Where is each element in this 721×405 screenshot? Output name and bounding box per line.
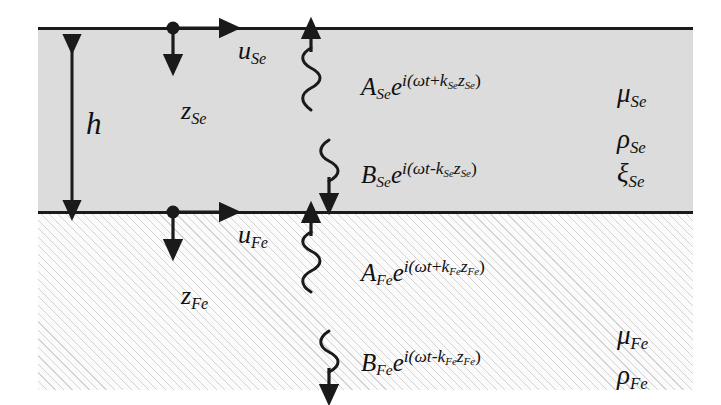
exponential-base: e	[391, 73, 402, 100]
property-subscript: Se	[631, 92, 647, 111]
exponential-base: e	[391, 161, 402, 188]
amplitude-symbol: A	[361, 259, 376, 286]
wave-propagation-diagram: h uSe zSe uFe zFe ASeei(ωt+kSezSe) BSeei…	[0, 0, 721, 405]
amplitude-symbol: A	[361, 73, 376, 100]
property-symbol: ρ	[617, 124, 630, 154]
z-fe-symbol: z	[181, 281, 191, 310]
exponent-suffix: )	[471, 158, 477, 178]
property-symbol: ρ	[617, 360, 630, 390]
u-fe-subscript: Fe	[251, 234, 268, 251]
material-property-xi-se: ξSe	[617, 160, 644, 190]
depth-subscript: Se	[465, 79, 475, 91]
z-se-subscript: Se	[191, 110, 206, 127]
tangential-axis-label-u-se: uSe	[238, 38, 266, 67]
material-property-rho-se: ρSe	[617, 126, 646, 156]
exponent-suffix: )	[479, 256, 485, 276]
property-subscript: Se	[630, 138, 646, 157]
sign-symbol: +	[430, 70, 440, 90]
exponent-group: i(ωt+kFezFe)	[404, 256, 485, 276]
exponent-prefix: i(	[404, 346, 415, 366]
amplitude-subscript: Fe	[376, 271, 392, 288]
amplitude-subscript: Se	[376, 173, 391, 190]
depth-symbol: z	[454, 158, 461, 178]
equation-upgoing-wave-fe: AFeei(ωt+kFezFe)	[361, 258, 485, 288]
top-surface-line	[38, 27, 693, 30]
omega-symbol: ω	[413, 70, 425, 90]
property-symbol: ξ	[617, 158, 629, 188]
wavenumber-subscript: Fe	[445, 355, 456, 367]
material-property-mu-fe: μFe	[617, 322, 648, 352]
wavenumber-symbol: k	[440, 70, 448, 90]
sign-symbol: +	[432, 256, 442, 276]
material-property-mu-se: μSe	[617, 80, 646, 110]
depth-subscript: Se	[461, 167, 471, 179]
amplitude-subscript: Fe	[376, 361, 392, 378]
depth-symbol: z	[458, 70, 465, 90]
property-subscript: Se	[629, 172, 645, 191]
exponent-prefix: i(	[402, 158, 413, 178]
omega-symbol: ω	[413, 158, 425, 178]
property-symbol: μ	[617, 78, 631, 108]
layer-interface-line	[38, 211, 693, 214]
z-se-symbol: z	[181, 96, 191, 125]
amplitude-subscript: Se	[376, 85, 391, 102]
wavenumber-subscript: Se	[444, 167, 454, 179]
u-se-symbol: u	[238, 36, 251, 65]
exponent-suffix: )	[475, 70, 481, 90]
depth-symbol: z	[461, 256, 468, 276]
wavenumber-subscript: Fe	[449, 265, 460, 277]
u-fe-symbol: u	[238, 220, 251, 249]
wavenumber-symbol: k	[436, 158, 444, 178]
exponent-group: i(ωt-kFezFe)	[404, 346, 481, 366]
u-se-subscript: Se	[251, 50, 266, 67]
normal-axis-label-z-fe: zFe	[181, 283, 208, 312]
property-subscript: Fe	[631, 334, 649, 353]
depth-subscript: Fe	[468, 265, 479, 277]
exponent-group: i(ωt-kSezSe)	[402, 158, 477, 178]
amplitude-symbol: B	[361, 161, 376, 188]
thickness-label-h: h	[86, 108, 102, 139]
depth-symbol: z	[457, 346, 464, 366]
wavenumber-subscript: Se	[448, 79, 458, 91]
z-fe-subscript: Fe	[191, 295, 208, 312]
exponent-suffix: )	[475, 346, 481, 366]
equation-upgoing-wave-se: ASeei(ωt+kSezSe)	[361, 72, 481, 102]
omega-symbol: ω	[414, 346, 426, 366]
exponent-prefix: i(	[404, 256, 415, 276]
tangential-axis-label-u-fe: uFe	[238, 222, 268, 251]
property-subscript: Fe	[630, 374, 648, 393]
exponent-group: i(ωt+kSezSe)	[402, 70, 481, 90]
exponential-base: e	[393, 259, 404, 286]
property-symbol: μ	[617, 320, 631, 350]
depth-subscript: Fe	[464, 355, 475, 367]
equation-downgoing-wave-fe: BFeei(ωt-kFezFe)	[361, 348, 481, 378]
normal-axis-label-z-se: zSe	[181, 98, 206, 127]
omega-symbol: ω	[414, 256, 426, 276]
material-property-rho-fe: ρFe	[617, 362, 648, 392]
exponent-prefix: i(	[402, 70, 413, 90]
equation-downgoing-wave-se: BSeei(ωt-kSezSe)	[361, 160, 477, 190]
exponential-base: e	[393, 349, 404, 376]
amplitude-symbol: B	[361, 349, 376, 376]
